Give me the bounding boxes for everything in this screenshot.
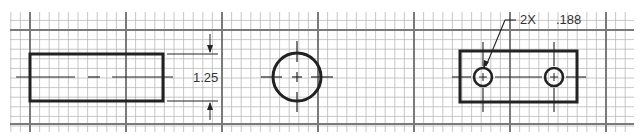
- hole-count-label: 2X: [520, 12, 536, 27]
- engineering-drawing: 1.25: [0, 0, 642, 139]
- end-view-centerlines: [261, 41, 333, 112]
- top-view: [452, 20, 586, 112]
- end-view: [261, 41, 333, 112]
- height-dimension-label: 1.25: [193, 70, 218, 85]
- hole-callout-leader: [483, 20, 516, 69]
- hole-diameter-label: .188: [556, 12, 581, 27]
